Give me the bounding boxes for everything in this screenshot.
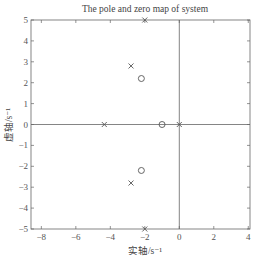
x-tick-label: 2 — [212, 232, 217, 242]
y-tick-label: 5 — [24, 15, 29, 25]
chart-title: The pole and zero map of system — [82, 4, 209, 14]
y-tick-label: 0 — [24, 120, 29, 130]
y-tick-label: 4 — [24, 36, 29, 46]
y-tick-label: −2 — [18, 161, 28, 171]
x-tick-label: 0 — [177, 232, 182, 242]
x-tick-label: −6 — [71, 232, 81, 242]
y-tick-label: 2 — [24, 78, 29, 88]
pole-marker-icon — [129, 181, 134, 186]
y-tick-label: −5 — [18, 224, 28, 234]
y-tick-label: −4 — [18, 203, 28, 213]
x-tick-label: −4 — [106, 232, 116, 242]
x-tick-label: 4 — [246, 232, 251, 242]
y-tick-label: −3 — [18, 182, 28, 192]
zero-marker-icon — [138, 167, 144, 173]
y-tick-label: −1 — [18, 140, 28, 150]
x-tick-label: −8 — [37, 232, 47, 242]
pole-zero-chart: The pole and zero map of system −8−6−4−2… — [0, 0, 257, 268]
pole-marker-icon — [129, 63, 134, 68]
x-axis-label: 实轴/s⁻¹ — [128, 245, 162, 256]
y-tick-label: 1 — [24, 99, 29, 109]
y-axis-label: 虚轴/s⁻¹ — [3, 108, 14, 142]
x-tick-label: −2 — [140, 232, 150, 242]
zero-marker-icon — [138, 76, 144, 82]
y-tick-label: 3 — [24, 57, 29, 67]
tick-labels: −8−6−4−2024−5−4−3−2−1012345 — [18, 15, 251, 242]
plot-axes — [31, 20, 250, 229]
